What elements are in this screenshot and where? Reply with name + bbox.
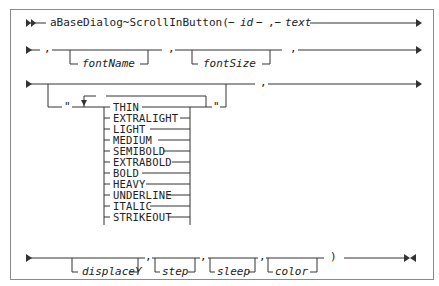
railroad-lines	[0, 0, 439, 286]
separator: −	[228, 17, 235, 29]
method-name: aBaseDialog~ScrollInButton(	[50, 17, 229, 29]
param-displacey: displaceY	[82, 266, 142, 278]
param-fontname: fontName	[82, 58, 135, 70]
close-paren: )	[330, 251, 337, 263]
comma: ,	[168, 43, 175, 55]
close-quote: "	[213, 101, 220, 113]
comma: ,	[44, 43, 51, 55]
param-text: text	[285, 17, 312, 29]
keyword-strikeout: STRIKEOUT	[113, 211, 172, 223]
comma: ,	[290, 43, 297, 55]
param-id: id	[240, 17, 253, 29]
comma-separator: ,−	[268, 17, 281, 29]
open-quote: "	[64, 101, 71, 113]
param-sleep: sleep	[217, 266, 250, 278]
comma: ,	[145, 251, 152, 263]
comma: ,	[260, 77, 267, 89]
param-fontsize: fontSize	[203, 58, 256, 70]
comma: ,	[200, 251, 207, 263]
param-color: color	[275, 266, 308, 278]
param-step: step	[162, 266, 189, 278]
comma: ,	[259, 251, 266, 263]
separator: −	[256, 17, 263, 29]
